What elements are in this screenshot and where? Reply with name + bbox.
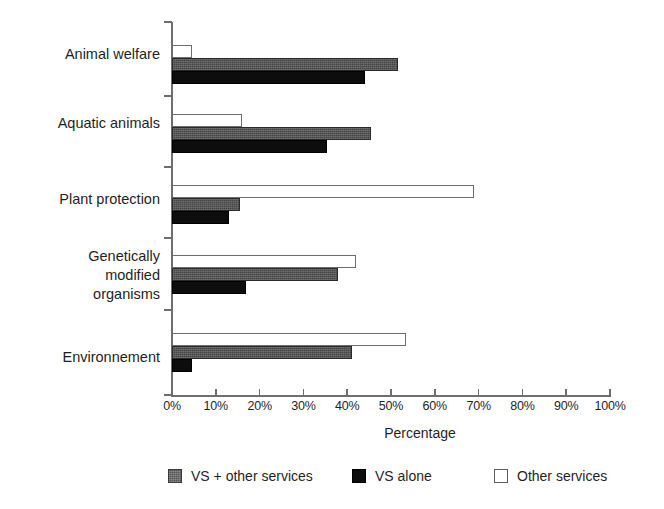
y-tick bbox=[164, 21, 172, 23]
category-label: Animal welfare bbox=[0, 45, 160, 64]
x-tick bbox=[478, 389, 480, 396]
x-tick-label: 20% bbox=[235, 399, 285, 413]
chart-legend: VS + other servicesVS aloneOther service… bbox=[0, 468, 664, 494]
legend-swatch-white bbox=[494, 469, 508, 483]
legend-label: VS + other services bbox=[191, 468, 313, 484]
bar bbox=[172, 359, 192, 372]
legend-item: Other services bbox=[494, 468, 607, 484]
bar bbox=[172, 281, 246, 294]
category-label: Environnement bbox=[0, 348, 160, 367]
x-tick-label: 80% bbox=[497, 399, 547, 413]
x-tick-label: 100% bbox=[585, 399, 635, 413]
category-label: Plant protection bbox=[0, 190, 160, 209]
bar bbox=[172, 268, 338, 281]
legend-swatch-black bbox=[352, 469, 366, 483]
x-tick bbox=[522, 389, 524, 396]
bar bbox=[172, 185, 474, 198]
x-tick-label: 40% bbox=[322, 399, 372, 413]
x-axis-title: Percentage bbox=[290, 425, 550, 441]
x-tick-label: 50% bbox=[366, 399, 416, 413]
bar bbox=[172, 346, 352, 359]
x-tick bbox=[565, 389, 567, 396]
category-label: Genetically modified organisms bbox=[0, 247, 160, 304]
x-tick bbox=[390, 389, 392, 396]
x-tick bbox=[609, 389, 611, 396]
legend-label: Other services bbox=[517, 468, 607, 484]
legend-item: VS alone bbox=[352, 468, 432, 484]
y-tick bbox=[164, 309, 172, 311]
x-tick bbox=[303, 389, 305, 396]
x-tick-label: 60% bbox=[410, 399, 460, 413]
x-tick-label: 70% bbox=[454, 399, 504, 413]
x-tick bbox=[259, 389, 261, 396]
bar bbox=[172, 127, 371, 140]
category-label: Aquatic animals bbox=[0, 114, 160, 133]
bar bbox=[172, 114, 242, 127]
bar bbox=[172, 198, 240, 211]
x-tick-label: 30% bbox=[278, 399, 328, 413]
legend-label: VS alone bbox=[375, 468, 432, 484]
legend-item: VS + other services bbox=[168, 468, 313, 484]
x-tick bbox=[346, 389, 348, 396]
x-tick bbox=[215, 389, 217, 396]
y-tick bbox=[164, 394, 172, 396]
x-tick bbox=[434, 389, 436, 396]
bar bbox=[172, 45, 192, 58]
y-tick bbox=[164, 95, 172, 97]
bar bbox=[172, 211, 229, 224]
bar bbox=[172, 255, 356, 268]
bar bbox=[172, 140, 327, 153]
legend-swatch-gray bbox=[168, 469, 182, 483]
x-tick-label: 0% bbox=[147, 399, 197, 413]
bar bbox=[172, 71, 365, 84]
x-tick-label: 10% bbox=[191, 399, 241, 413]
y-tick bbox=[164, 237, 172, 239]
bar bbox=[172, 58, 398, 71]
bar bbox=[172, 333, 406, 346]
y-tick bbox=[164, 166, 172, 168]
x-tick-label: 90% bbox=[541, 399, 591, 413]
bar-chart: 0%10%20%30%40%50%60%70%80%90%100% Animal… bbox=[0, 0, 664, 509]
